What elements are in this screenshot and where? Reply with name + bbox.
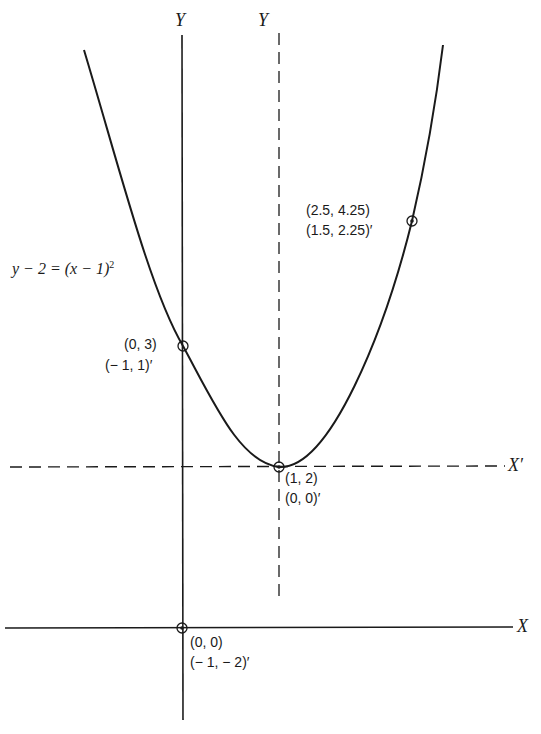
y-axis-label: Y (175, 12, 185, 28)
point-label-origin: (0, 0) (190, 634, 223, 651)
equation-exponent: 2 (109, 259, 114, 270)
y-prime-axis-label: Y (258, 12, 268, 28)
parabola-curve (84, 45, 443, 467)
x-axis-label: X (517, 618, 528, 634)
point-label-vertex: (1, 2) (285, 470, 318, 487)
point-label-y-intercept: (0, 3) (124, 336, 157, 353)
point-label-y-intercept-prime: (− 1, 1)′ (105, 357, 152, 374)
point-label-right: (2.5, 4.25) (306, 202, 370, 219)
equation-label: y − 2 = (x − 1)2 (12, 257, 114, 277)
point-label-vertex-prime: (0, 0)′ (285, 490, 320, 507)
equation-text: y − 2 = (x − 1) (12, 260, 109, 277)
x-prime-axis-label: X′ (508, 457, 523, 473)
parabola-figure (0, 0, 541, 734)
y-axis (182, 35, 183, 720)
point-label-origin-prime: (− 1, − 2)′ (190, 654, 249, 671)
point-label-right-prime: (1.5, 2.25)′ (306, 222, 372, 239)
x-prime-axis (10, 466, 505, 467)
x-axis (5, 627, 513, 628)
